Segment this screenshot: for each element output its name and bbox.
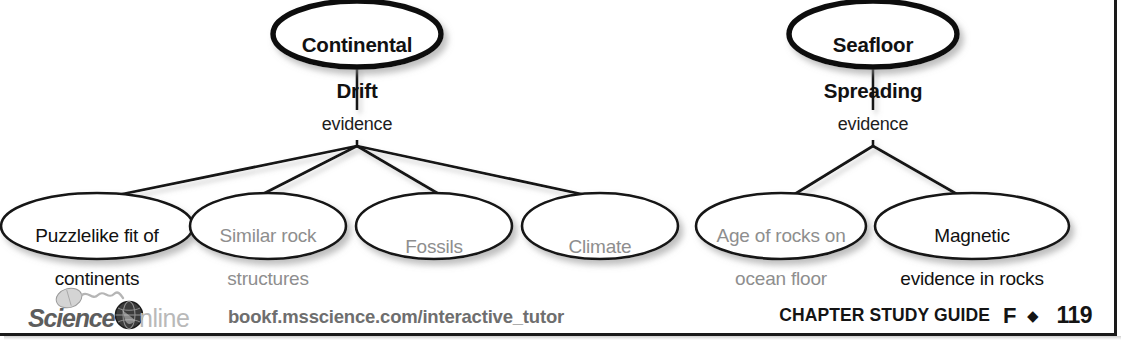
textbook-page: Continental Drift Seafloor Spreading evi…: [0, 0, 1144, 352]
ellipse-fossils[interactable]: [356, 193, 512, 259]
footer-url-link[interactable]: bookf.msscience.com/interactive_tutor: [228, 306, 564, 328]
ellipse-continental-drift[interactable]: [273, 1, 441, 67]
page-footer: Science nline bookf.msscience.com/intera…: [0, 284, 1114, 330]
diamond-icon: ◆: [1027, 307, 1039, 325]
chapter-study-guide-label: CHAPTER STUDY GUIDE: [779, 305, 990, 326]
footer-chapter-info: CHAPTER STUDY GUIDE F ◆ 119: [779, 302, 1092, 329]
connector-to-climate: [357, 146, 595, 197]
volume-letter: F: [1003, 303, 1016, 329]
ellipse-magnetic-evidence-in-rocks[interactable]: [875, 193, 1069, 259]
edge-label-evidence-left: evidence: [297, 114, 417, 135]
logo-text-online: nline: [139, 304, 189, 333]
page-border-right: [1114, 0, 1117, 336]
ellipse-seafloor-spreading[interactable]: [789, 1, 957, 67]
connector-to-puzzlelike-fit: [108, 146, 357, 197]
connector-to-magnetic-evidence: [873, 146, 962, 197]
connector-to-age-of-rocks: [790, 146, 873, 197]
connector-to-fossils: [357, 146, 444, 197]
ellipse-puzzlelike-fit-of-continents[interactable]: [1, 193, 193, 259]
ellipse-climate[interactable]: [522, 193, 678, 259]
edge-label-evidence-right: evidence: [813, 114, 933, 135]
connector-to-similar-rock-structures: [257, 146, 357, 197]
page-border-bottom-shadow: [4, 336, 1121, 340]
page-number: 119: [1056, 302, 1092, 329]
ellipse-similar-rock-structures[interactable]: [190, 193, 346, 259]
science-online-logo[interactable]: Science nline: [28, 286, 218, 330]
logo-text-science: Science: [28, 304, 114, 333]
ellipse-age-of-rocks-on-ocean-floor[interactable]: [696, 193, 866, 259]
